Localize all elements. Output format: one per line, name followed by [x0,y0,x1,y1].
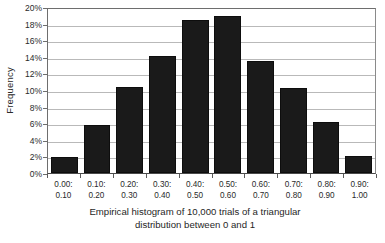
y-axis-tick-label: 0% [30,169,42,179]
histogram-bar[interactable] [214,16,241,173]
x-label-upper-bound: 0.20 [80,191,113,202]
histogram-bar[interactable] [51,157,78,173]
bar-slot [113,9,146,173]
y-axis-tick-label: 20% [25,3,42,13]
x-label-lower-bound: 0.80: [310,180,343,191]
bar-slot [212,9,245,173]
x-axis-tick-label: 0.90:1.00 [343,180,376,201]
x-axis-tick [113,174,114,178]
y-axis-tick-label: 14% [25,53,42,63]
y-axis-tick-label: 10% [25,86,42,96]
x-axis-tick [277,174,278,178]
bar-slot [310,9,343,173]
x-axis-tick-label: 0.30:0.40 [146,180,179,201]
y-axis-tick-label: 18% [25,20,42,30]
chart-caption: Empirical histogram of 10,000 trials of … [20,206,370,231]
x-label-lower-bound: 0.10: [80,180,113,191]
y-axis-title-text: Frequency [4,67,15,114]
x-axis-tick [80,174,81,178]
x-axis-tick-label: 0.20:0.30 [113,180,146,201]
histogram-bar[interactable] [247,61,274,173]
caption-line-2: distribution between 0 and 1 [20,219,370,232]
x-axis-tick-label: 0.00:0.10 [47,180,80,201]
histogram-bar[interactable] [116,87,143,173]
x-label-lower-bound: 0.50: [212,180,245,191]
histogram-bar[interactable] [313,122,340,173]
x-label-lower-bound: 0.70: [277,180,310,191]
x-axis-tick-label: 0.80:0.90 [310,180,343,201]
x-label-upper-bound: 0.80 [277,191,310,202]
bar-series [48,9,375,173]
y-axis-tick-label: 8% [30,103,42,113]
x-axis-tick [179,174,180,178]
x-label-upper-bound: 0.90 [310,191,343,202]
x-label-upper-bound: 0.60 [212,191,245,202]
x-axis-tick-label: 0.50:0.60 [212,180,245,201]
x-axis-tick [310,174,311,178]
x-label-lower-bound: 0.00: [47,180,80,191]
histogram-bar[interactable] [182,20,209,173]
x-label-lower-bound: 0.90: [343,180,376,191]
x-label-upper-bound: 0.10 [47,191,80,202]
x-axis-tick [376,174,377,178]
histogram-bar[interactable] [84,125,111,173]
plot-area [47,8,376,174]
x-axis-tick-label: 0.60:0.70 [244,180,277,201]
bar-slot [277,9,310,173]
histogram-bar[interactable] [345,156,372,173]
x-axis-tick-labels: 0.00:0.100.10:0.200.20:0.300.30:0.400.40… [47,180,376,201]
y-axis-tick-labels: 20%18%16%14%12%10%8%6%4%2%0% [18,8,45,174]
histogram-bar[interactable] [280,88,307,173]
histogram-figure: Frequency 20%18%16%14%12%10%8%6%4%2%0% 0… [0,0,385,243]
x-axis-tick [212,174,213,178]
caption-line-1: Empirical histogram of 10,000 trials of … [20,206,370,219]
x-axis-tick [244,174,245,178]
bar-slot [48,9,81,173]
y-axis-tick-label: 12% [25,69,42,79]
bar-slot [179,9,212,173]
x-axis-tick-label: 0.40:0.50 [179,180,212,201]
y-axis-tick-label: 2% [30,152,42,162]
y-axis-tick-label: 4% [30,136,42,146]
x-axis-tick-label: 0.70:0.80 [277,180,310,201]
x-axis-tick-label: 0.10:0.20 [80,180,113,201]
x-label-upper-bound: 1.00 [343,191,376,202]
x-axis-tick [47,174,48,178]
y-axis-title: Frequency [0,0,18,180]
x-label-lower-bound: 0.40: [179,180,212,191]
x-label-upper-bound: 0.30 [113,191,146,202]
x-axis-tick [343,174,344,178]
x-label-upper-bound: 0.40 [146,191,179,202]
x-axis-tick-marks [47,174,376,179]
x-axis-tick [146,174,147,178]
histogram-bar[interactable] [149,56,176,173]
bar-slot [342,9,375,173]
bar-slot [146,9,179,173]
bar-slot [81,9,114,173]
x-label-lower-bound: 0.20: [113,180,146,191]
y-axis-tick-label: 6% [30,119,42,129]
x-label-upper-bound: 0.50 [179,191,212,202]
x-label-upper-bound: 0.70 [244,191,277,202]
x-label-lower-bound: 0.60: [244,180,277,191]
y-axis-tick-label: 16% [25,36,42,46]
x-label-lower-bound: 0.30: [146,180,179,191]
bar-slot [244,9,277,173]
